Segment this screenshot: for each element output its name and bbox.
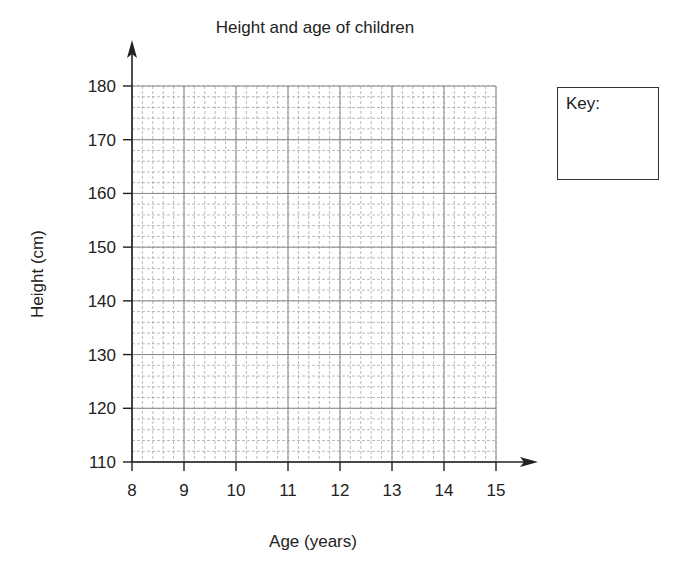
axes	[123, 40, 538, 471]
chart-title: Height and age of children	[216, 18, 414, 37]
svg-text:15: 15	[487, 481, 506, 500]
svg-text:13: 13	[383, 481, 402, 500]
x-axis-label: Age (years)	[269, 532, 357, 551]
svg-text:170: 170	[88, 131, 116, 150]
svg-text:10: 10	[227, 481, 246, 500]
svg-text:8: 8	[127, 481, 136, 500]
svg-text:130: 130	[88, 346, 116, 365]
legend-key-title: Key:	[566, 94, 600, 114]
svg-text:150: 150	[88, 238, 116, 257]
svg-text:11: 11	[279, 481, 297, 500]
tick-labels: 89101112131415110120130140150160170180	[88, 77, 506, 500]
svg-text:110: 110	[89, 453, 116, 472]
svg-text:180: 180	[88, 77, 116, 96]
svg-text:12: 12	[331, 481, 350, 500]
svg-text:140: 140	[88, 292, 116, 311]
svg-text:160: 160	[88, 184, 116, 203]
minor-grid	[132, 86, 496, 462]
major-grid	[132, 86, 496, 462]
y-axis-label: Height (cm)	[28, 230, 47, 318]
svg-text:120: 120	[88, 399, 116, 418]
chart: 89101112131415110120130140150160170180 H…	[0, 0, 681, 566]
svg-text:9: 9	[179, 481, 188, 500]
legend-key-box: Key:	[557, 87, 659, 180]
svg-text:14: 14	[435, 481, 454, 500]
